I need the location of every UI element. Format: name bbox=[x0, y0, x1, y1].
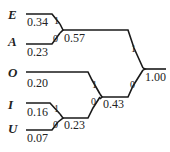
node-prob-ea: 0.57 bbox=[64, 31, 85, 45]
node-prob-iu: 0.23 bbox=[64, 118, 85, 132]
junction-oiu bbox=[100, 94, 102, 99]
leaf-symbol-e: E bbox=[7, 7, 17, 22]
bit-oiu: 0 bbox=[130, 79, 135, 90]
node-prob-root: 1.00 bbox=[145, 70, 166, 84]
bit-o: 1 bbox=[92, 79, 97, 90]
leaf-prob-e: 0.34 bbox=[27, 15, 48, 29]
junction-iu bbox=[58, 114, 63, 122]
leaf-symbol-o: O bbox=[8, 65, 18, 80]
bit-a: 0 bbox=[53, 33, 58, 44]
leaf-prob-u: 0.07 bbox=[27, 131, 48, 145]
leaf-symbol-i: I bbox=[7, 97, 14, 112]
bit-i: 1 bbox=[54, 103, 59, 114]
bit-e: 1 bbox=[54, 15, 59, 26]
leaf-symbol-a: A bbox=[7, 34, 17, 49]
edge-oiu bbox=[102, 70, 143, 97]
node-prob-oiu: 0.43 bbox=[103, 97, 124, 111]
bit-u: 0 bbox=[53, 119, 58, 130]
huffman-tree-diagram: E 0.34 1 A 0.23 0 0.57 1 O 0.20 1 I 0.16… bbox=[0, 0, 170, 152]
leaf-symbol-u: U bbox=[8, 121, 18, 136]
bit-iu: 0 bbox=[91, 96, 96, 107]
bit-ea: 1 bbox=[131, 43, 136, 54]
junction-ea bbox=[60, 24, 63, 33]
leaf-prob-o: 0.20 bbox=[27, 76, 48, 90]
leaf-prob-a: 0.23 bbox=[27, 45, 48, 59]
leaf-prob-i: 0.16 bbox=[27, 105, 48, 119]
